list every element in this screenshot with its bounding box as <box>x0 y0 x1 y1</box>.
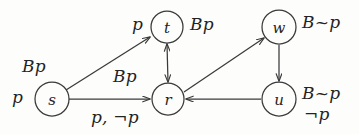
annotation-r-belief: Bp <box>113 66 137 86</box>
node-r[interactable]: r <box>152 83 184 115</box>
kripke-model-diagram: s t r w u Bp p p Bp B~p B~p ¬p Bp p, ¬p <box>0 0 359 134</box>
node-w[interactable]: w <box>262 10 296 44</box>
node-s-label: s <box>48 91 56 109</box>
annotation-r-proposition: p, ¬p <box>91 107 139 127</box>
node-s[interactable]: s <box>35 82 69 116</box>
annotation-s-belief: Bp <box>22 56 46 76</box>
node-u-label: u <box>274 91 284 109</box>
node-t[interactable]: t <box>151 11 183 43</box>
node-w-label: w <box>273 19 286 37</box>
edge-r-to-w <box>184 38 264 92</box>
annotation-w-belief: B~p <box>302 12 340 32</box>
node-u[interactable]: u <box>262 82 296 116</box>
node-t-label: t <box>164 19 171 37</box>
annotation-u-belief: B~p <box>302 83 340 103</box>
annotation-s-proposition: p <box>12 87 23 107</box>
node-r-label: r <box>164 91 172 109</box>
annotation-t-belief: Bp <box>190 14 214 34</box>
edge-t-to-r-bidirectional <box>167 44 168 82</box>
edge-s-to-t <box>66 37 150 90</box>
annotation-u-proposition: ¬p <box>304 104 330 124</box>
annotation-t-proposition: p <box>132 14 143 34</box>
